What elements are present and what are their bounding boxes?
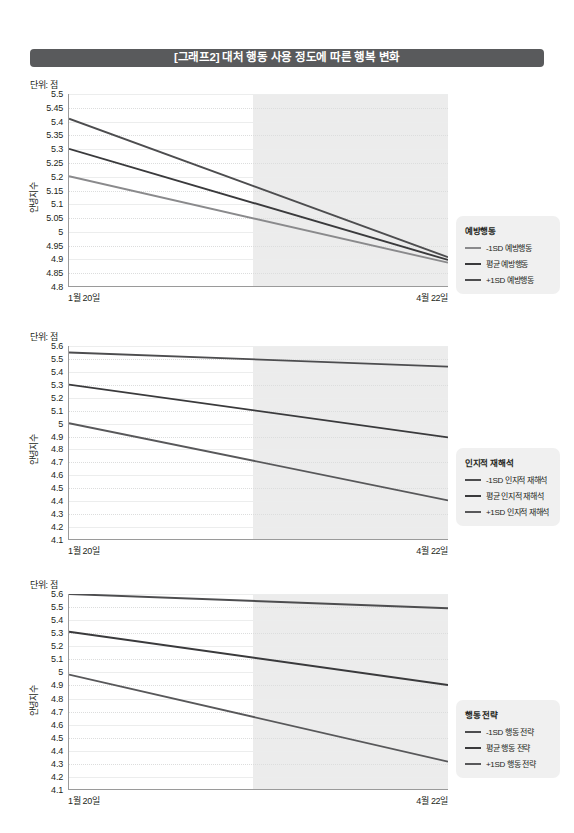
legend-line-swatch-icon [465,479,481,481]
legend-line-swatch-icon [465,263,481,265]
legend-line-swatch-icon [465,763,481,765]
y-tick-label: 4.7 [51,457,63,467]
plot-inner [68,94,448,287]
series-line [69,632,448,685]
legend-item-label: 평균 예방행동 [486,258,528,269]
y-tick-label: 5.4 [51,615,63,625]
plot-area: 1월 20일 4월 22일 5.65.55.45.35.25.154.94.84… [68,346,448,540]
series-line [69,594,448,608]
series-line [69,149,448,260]
y-tick-label: 5.6 [51,589,63,599]
x-tick-start: 1월 20일 [68,291,100,304]
legend-item-label: 평균 행동 전략 [486,742,530,753]
y-tick-label: 5 [58,227,63,237]
x-tick-start: 1월 20일 [68,544,100,557]
y-tick-label: 5.4 [51,117,63,127]
y-tick-label: 5.2 [51,393,63,403]
graph-page: [그래프2] 대처 행동 사용 정도에 따른 행복 변화 단위: 점 안녕지수 … [0,0,574,833]
y-tick-label: 5 [58,667,63,677]
legend-line-swatch-icon [465,731,481,733]
y-tick-label: 4.3 [51,759,63,769]
y-tick-label: 5.2 [51,641,63,651]
y-tick-label: 5.05 [46,213,63,223]
y-tick-label: 5.1 [51,406,63,416]
y-tick-label: 4.9 [51,254,63,264]
series-line [69,423,448,500]
y-tick-label: 4.4 [51,496,63,506]
legend-line-swatch-icon [465,495,481,497]
y-tick-label: 4.9 [51,680,63,690]
y-tick-label: 4.9 [51,432,63,442]
chart-panel-preventive-behavior: 단위: 점 안녕지수 1월 20일 4월 22일 5.55.455.45.355… [0,78,574,318]
series-line [69,385,448,438]
y-axis-title: 안녕지수 [27,183,40,214]
y-tick-label: 5.1 [51,199,63,209]
y-tick-label: 5.3 [51,628,63,638]
y-tick-label: 4.6 [51,470,63,480]
y-tick-label: 5.1 [51,654,63,664]
x-tick-end: 4월 22일 [416,544,448,557]
legend-item[interactable]: 평균 행동 전략 [465,742,551,753]
legend-item-label: +1SD 행동 전략 [486,758,536,769]
plot-area: 1월 20일 4월 22일 5.65.55.45.35.25.154.94.84… [68,594,448,790]
legend-items: -1SD 행동 전략평균 행동 전략+1SD 행동 전략 [465,726,551,769]
y-tick-label: 4.8 [51,444,63,454]
legend-line-swatch-icon [465,279,481,281]
y-tick-label: 5 [58,419,63,429]
legend-item[interactable]: -1SD 행동 전략 [465,726,551,737]
y-axis-title: 안녕지수 [27,435,40,466]
y-tick-label: 5.25 [46,158,63,168]
y-tick-label: 4.4 [51,746,63,756]
legend-item[interactable]: -1SD 예방행동 [465,242,551,253]
legend-item-label: +1SD 인지적 재해석 [486,506,549,517]
series-lines [69,94,448,286]
y-tick-label: 5.35 [46,130,63,140]
legend-item[interactable]: -1SD 인지적 재해석 [465,474,551,485]
y-tick-label: 5.4 [51,367,63,377]
legend-item[interactable]: 평균 예방행동 [465,258,551,269]
plot-inner [68,594,448,790]
legend-item[interactable]: 평균 인지적 재해석 [465,490,551,501]
legend-title: 행동 전략 [465,708,551,720]
legend-item-label: -1SD 예방행동 [486,242,532,253]
plot-inner [68,346,448,540]
legend-item-label: 평균 인지적 재해석 [486,490,543,501]
chart-legend: 인지적 재해석 -1SD 인지적 재해석평균 인지적 재해석+1SD 인지적 재… [456,448,560,526]
y-tick-label: 4.5 [51,733,63,743]
x-tick-end: 4월 22일 [416,794,448,807]
legend-items: -1SD 예방행동평균 예방행동+1SD 예방행동 [465,242,551,285]
y-tick-label: 5.3 [51,144,63,154]
legend-item-label: -1SD 인지적 재해석 [486,474,547,485]
series-line [69,176,448,262]
y-tick-label: 4.85 [46,268,63,278]
legend-line-swatch-icon [465,747,481,749]
y-tick-label: 5.5 [51,354,63,364]
y-tick-label: 5.3 [51,380,63,390]
y-tick-label: 4.8 [51,694,63,704]
y-axis-title: 안녕지수 [27,685,40,716]
legend-line-swatch-icon [465,247,481,249]
legend-item[interactable]: +1SD 인지적 재해석 [465,506,551,517]
chart-legend: 행동 전략 -1SD 행동 전략평균 행동 전략+1SD 행동 전략 [456,700,560,778]
legend-line-swatch-icon [465,511,481,513]
series-lines [69,346,448,539]
y-tick-label: 5.6 [51,341,63,351]
series-lines [69,594,448,789]
chart-legend: 예방행동 -1SD 예방행동평균 예방행동+1SD 예방행동 [456,216,560,294]
y-tick-label: 4.7 [51,707,63,717]
legend-item[interactable]: +1SD 행동 전략 [465,758,551,769]
series-line [69,352,448,366]
legend-item[interactable]: +1SD 예방행동 [465,274,551,285]
page-title: [그래프2] 대처 행동 사용 정도에 따른 행복 변화 [174,52,400,64]
x-tick-end: 4월 22일 [416,291,448,304]
y-tick-label: 4.2 [51,772,63,782]
legend-item-label: +1SD 예방행동 [486,274,534,285]
legend-title: 예방행동 [465,224,551,236]
legend-title: 인지적 재해석 [465,456,551,468]
x-tick-start: 1월 20일 [68,794,100,807]
y-tick-label: 5.5 [51,89,63,99]
y-tick-label: 4.5 [51,483,63,493]
y-tick-label: 5.45 [46,103,63,113]
y-tick-label: 4.95 [46,241,63,251]
y-tick-label: 4.6 [51,720,63,730]
